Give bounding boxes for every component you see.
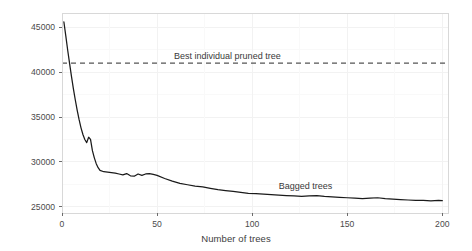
best-individual-pruned-tree-label: Best individual pruned tree — [174, 51, 281, 61]
y-tick-label: 40000 — [11, 67, 55, 77]
y-axis-title: RMSE — [0, 79, 2, 139]
plot-area — [0, 0, 472, 251]
y-tick-label: 30000 — [11, 157, 55, 167]
y-tick-label: 25000 — [11, 202, 55, 212]
x-tick-label: 200 — [422, 219, 462, 229]
panel-background — [62, 13, 448, 213]
y-tick-label: 35000 — [11, 112, 55, 122]
x-tick-label: 150 — [327, 219, 367, 229]
x-axis-title: Number of trees — [0, 233, 472, 244]
y-tick-label: 45000 — [11, 22, 55, 32]
bagged-trees-label: Bagged trees — [279, 181, 333, 191]
rmse-vs-number-of-trees-chart: 25000 30000 35000 40000 45000 0 50 100 1… — [0, 0, 472, 251]
x-tick-label: 50 — [137, 219, 177, 229]
x-tick-label: 0 — [42, 219, 82, 229]
x-tick-label: 100 — [232, 219, 272, 229]
